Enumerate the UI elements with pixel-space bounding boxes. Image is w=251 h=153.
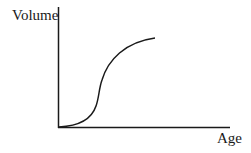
y-axis-label: Volume	[12, 8, 58, 23]
x-axis-label: Age	[217, 131, 242, 146]
growth-curve	[59, 38, 155, 127]
